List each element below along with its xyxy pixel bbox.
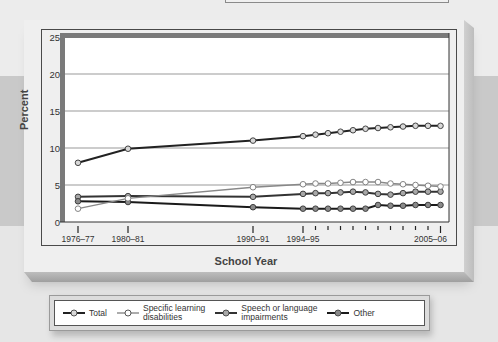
legend-item-total: Total [63, 308, 107, 318]
svg-text:1976–77: 1976–77 [61, 234, 94, 244]
speech-marker-icon [215, 308, 237, 318]
svg-text:15: 15 [49, 106, 60, 117]
legend-inner: Total Specific learningdisabilities Spee… [54, 300, 425, 326]
svg-text:10: 10 [49, 143, 60, 154]
svg-text:0: 0 [55, 217, 60, 228]
svg-text:25: 25 [49, 32, 60, 43]
x-axis-label: School Year [215, 255, 278, 267]
y-axis-label: Percent [18, 90, 30, 130]
line-chart: 0510152025 1976–771980–811990–911994–952… [0, 0, 498, 342]
y-axis-ticks: 0510152025 [49, 32, 60, 228]
other-marker-icon [327, 308, 349, 318]
legend-item-speech: Speech or languageimpairments [215, 304, 317, 322]
legend-item-other: Other [327, 308, 374, 318]
svg-text:5: 5 [55, 180, 60, 191]
legend-item-sld: Specific learningdisabilities [117, 304, 205, 322]
svg-text:1990–91: 1990–91 [236, 234, 269, 244]
legend-label-line2: disabilities [143, 313, 205, 322]
svg-text:1980–81: 1980–81 [111, 234, 144, 244]
legend: Total Specific learningdisabilities Spee… [49, 295, 430, 331]
svg-text:1994–95: 1994–95 [286, 234, 319, 244]
legend-label: Other [353, 309, 374, 318]
total-marker-icon [63, 308, 85, 318]
sld-marker-icon [117, 308, 139, 318]
legend-label-line2: impairments [241, 313, 317, 322]
svg-text:20: 20 [49, 69, 60, 80]
svg-text:2005–06: 2005–06 [414, 234, 447, 244]
legend-label: Total [89, 309, 107, 318]
x-axis-ticks: 1976–771980–811990–911994–952005–06 [61, 226, 447, 244]
